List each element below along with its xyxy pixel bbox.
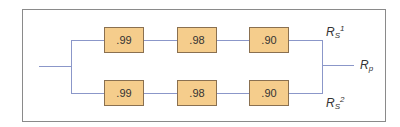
right-joiner: [322, 40, 323, 94]
component-box-top-1: .99: [104, 27, 144, 53]
left-splitter: [71, 40, 72, 93]
component-box-bottom-1: .99: [104, 80, 144, 106]
label-rs1: RS1: [326, 24, 344, 40]
label-rp: Rp: [360, 58, 373, 73]
component-box-top-2: .98: [177, 27, 217, 53]
input-line: [39, 66, 72, 67]
component-box-top-3: .90: [249, 27, 289, 53]
component-box-bottom-3: .90: [249, 80, 289, 106]
component-box-bottom-2: .98: [177, 80, 217, 106]
output-line: [322, 65, 354, 66]
label-rs2: RS2: [326, 95, 344, 111]
